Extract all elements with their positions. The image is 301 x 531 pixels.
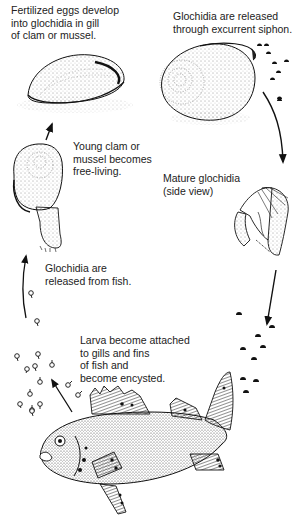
fish-host-icon (40, 372, 233, 514)
glochidia-particles-bottom (236, 312, 275, 393)
arrow-young-to-mussel (46, 124, 52, 140)
mussel-shell-icon (17, 55, 133, 113)
stage-label-fish-release: Glochidia are released from fish. (45, 262, 131, 287)
stage-label-mature: Mature glochidia (side view) (163, 172, 240, 197)
arrow-released-to-young (23, 256, 26, 318)
mature-glochidium-icon (235, 188, 289, 256)
stage-label-release: Glochidia are released through excurrent… (173, 10, 292, 35)
glochidia-particles-top (257, 44, 289, 102)
stage-label-attach: Larva become attached to gills and fins … (80, 334, 190, 384)
arrow-mature-to-fish (267, 270, 276, 324)
stage-label-young: Young clam or mussel becomes free-living… (73, 140, 152, 178)
arrow-release-to-mature (263, 92, 283, 162)
clam-shell-icon (160, 43, 256, 125)
stage-label-eggs: Fertilized eggs develop into glochidia i… (11, 4, 119, 42)
young-clam-icon (14, 144, 63, 252)
